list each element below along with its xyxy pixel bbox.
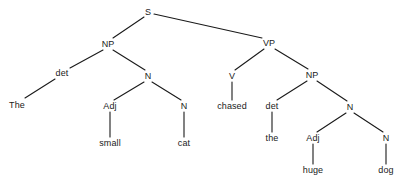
tree-node-small: small [99,139,121,148]
tree-edge-s-to-np1 [113,17,144,38]
tree-node-s: S [145,8,151,17]
tree-edge-np1-to-n1 [113,50,145,70]
tree-node-adj1: Adj [103,102,116,111]
tree-edge-s-to-vp [154,14,262,38]
tree-node-adj2: Adj [306,134,319,143]
tree-node-vp: VP [263,39,275,48]
tree-edge-np1-to-det1 [70,50,103,68]
tree-edge-np2-to-det2 [277,81,307,100]
tree-edge-vp-to-np2 [275,49,308,69]
tree-node-n1: N [145,72,152,81]
tree-edge-vp-to-v [235,49,264,70]
tree-edges-layer [0,0,398,183]
tree-node-v: V [229,72,235,81]
tree-node-n3: N [347,103,354,112]
tree-node-the2: the [266,134,279,143]
tree-edge-np2-to-n3 [317,81,347,101]
tree-edge-n3-to-adj2 [317,113,346,132]
tree-node-det2: det [266,102,279,111]
tree-edge-det1-to-the1 [25,79,55,98]
tree-edge-n1-to-n2 [152,82,181,100]
tree-node-dog: dog [378,166,393,175]
tree-node-the1: The [9,101,25,110]
tree-node-chased: chased [217,102,247,111]
tree-edge-n3-to-n4 [354,113,383,132]
tree-node-cat: cat [178,139,190,148]
tree-node-huge: huge [303,166,323,175]
tree-edge-n1-to-adj1 [114,82,144,100]
tree-node-np2: NP [306,71,319,80]
tree-node-n4: N [383,134,390,143]
tree-node-det1: det [56,69,69,78]
syntax-tree-diagram: SNPdetTheNAdjsmallNcatVPVchasedNPdettheN… [0,0,398,183]
tree-node-n2: N [181,102,188,111]
tree-node-np1: NP [102,40,115,49]
